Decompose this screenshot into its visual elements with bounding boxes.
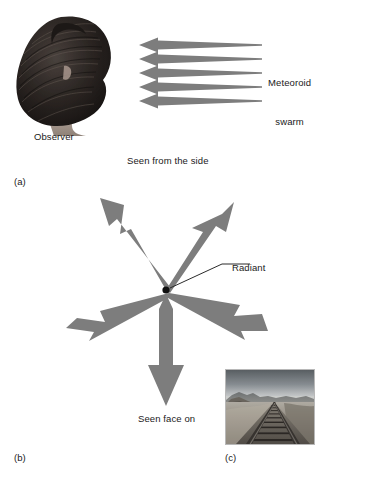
meteoroid-swarm-label: Meteoroid swarm — [268, 50, 311, 154]
panel-a-caption: Seen from the side — [127, 155, 209, 167]
radiant-point-dot — [162, 286, 169, 293]
swarm-arrow-4 — [139, 80, 262, 95]
swarm-arrow-5 — [139, 94, 262, 109]
panel-a-tag: (a) — [14, 176, 26, 187]
radiant-arrow-upper-left — [100, 198, 170, 290]
radiant-arrow-lower-left — [66, 293, 170, 341]
swarm-arrow-2 — [139, 52, 262, 67]
panel-c-tag: (c) — [225, 452, 236, 463]
meteoroid-swarm-label-line2: swarm — [268, 115, 311, 128]
radiant-label: Radiant — [232, 262, 265, 274]
panel-b-caption: Seen face on — [138, 413, 195, 425]
radiant-arrow-lower-right — [168, 293, 268, 340]
railroad-photo — [225, 369, 315, 445]
photo-grain — [226, 370, 314, 444]
meteoroid-swarm-label-line1: Meteoroid — [268, 76, 311, 89]
radiant-arrow-down — [148, 294, 184, 406]
panel-b-tag: (b) — [14, 452, 26, 463]
swarm-arrow-1 — [139, 38, 262, 53]
radiant-diagram — [0, 188, 376, 420]
swarm-arrow-3 — [139, 66, 262, 81]
figure-root: Observer Meteoroid swarm Seen from the s… — [0, 0, 376, 477]
radiant-arrow-upper-right — [166, 202, 234, 293]
